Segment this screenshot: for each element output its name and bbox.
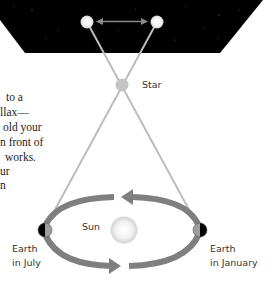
orbit-arc-bottom-right <box>129 234 199 266</box>
sun-icon <box>109 215 139 245</box>
body-text-line: n front of <box>0 137 43 149</box>
apparent-star-position-right <box>151 16 164 29</box>
body-text-line: old your <box>3 122 42 134</box>
body-text-line: n <box>0 180 6 192</box>
body-text-line: llax— <box>0 107 29 119</box>
earth-july-label-line2: in July <box>12 258 41 268</box>
night-sky-panel <box>0 0 263 53</box>
orbit-arc-top-left <box>45 197 114 226</box>
star-label: Star <box>142 80 161 90</box>
earth-july-icon <box>38 223 52 237</box>
body-text-line: ur <box>0 166 10 178</box>
body-text-line: to a <box>6 92 23 104</box>
apparent-star-position-left <box>81 16 94 29</box>
sun-label: Sun <box>82 222 100 232</box>
orbit-arc-bottom-left <box>45 234 112 266</box>
earth-january-icon <box>193 223 207 237</box>
star-dot <box>116 79 129 92</box>
orbit-arrowhead-right-icon <box>109 258 121 274</box>
earth-july-label-line1: Earth <box>12 244 37 254</box>
orbit-arrowhead-left-icon <box>121 189 133 205</box>
orbit-arc-top-right <box>132 197 199 226</box>
earth-january-label-line1: Earth <box>210 244 235 254</box>
parallax-diagram: Star Sun Earth in July Earth in January … <box>0 0 272 285</box>
body-text-line: works. <box>5 152 36 164</box>
earth-january-label-line2: in January <box>210 258 258 268</box>
